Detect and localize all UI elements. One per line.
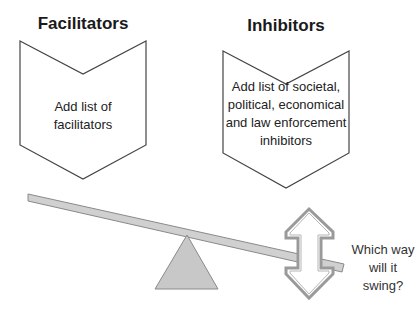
- swing-question: Which way will it swing?: [350, 241, 416, 295]
- fulcrum-triangle: [155, 235, 218, 289]
- inhibitors-list: Add list of societal, political, economi…: [224, 78, 348, 150]
- facilitators-list: Add list of facilitators: [24, 98, 142, 134]
